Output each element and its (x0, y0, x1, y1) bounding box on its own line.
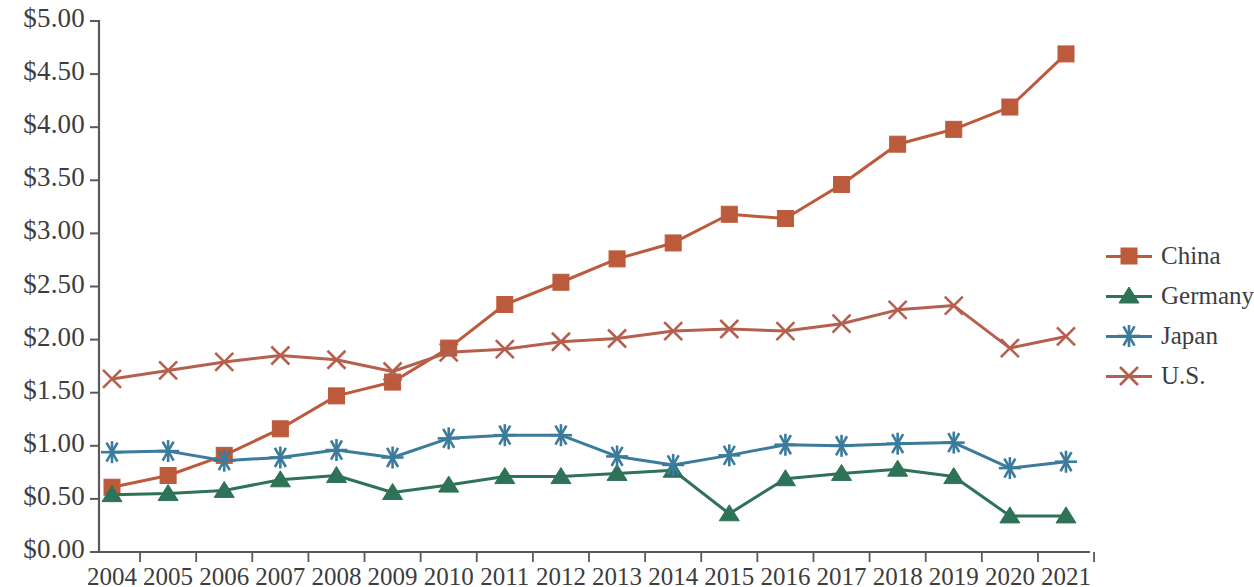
legend-item-china[interactable]: China (1106, 236, 1240, 276)
series-japan (101, 424, 1077, 479)
legend-label: Germany (1161, 282, 1254, 310)
data-point-marker (553, 274, 569, 290)
legend-marker-icon (1116, 243, 1142, 269)
legend-swatch (1106, 245, 1152, 267)
legend-item-germany[interactable]: Germany (1106, 276, 1240, 316)
x-axis-label: 2021 (1026, 563, 1106, 587)
y-axis-label: $5.00 (23, 3, 85, 34)
legend-marker-icon (1116, 363, 1142, 389)
data-point-marker (1119, 287, 1139, 303)
data-point-marker (497, 297, 513, 313)
chart-legend: ChinaGermanyJapanU.S. (1106, 236, 1240, 396)
data-point-marker (326, 467, 346, 483)
legend-marker-icon (1116, 283, 1142, 309)
data-point-marker (609, 251, 625, 267)
y-axis-label: $2.00 (23, 322, 85, 353)
data-point-marker (834, 177, 850, 193)
series-line (112, 469, 1066, 516)
data-point-marker (328, 388, 344, 404)
legend-item-us[interactable]: U.S. (1106, 356, 1240, 396)
y-axis-label: $1.50 (23, 375, 85, 406)
series-china (104, 46, 1074, 495)
data-point-marker (1002, 99, 1018, 115)
series-line (112, 54, 1066, 487)
y-axis-label: $2.50 (23, 269, 85, 300)
data-point-marker (946, 121, 962, 137)
series-germany (102, 460, 1076, 523)
data-point-marker (890, 136, 906, 152)
data-point-marker (665, 235, 681, 251)
legend-swatch (1106, 365, 1152, 387)
legend-swatch (1106, 325, 1152, 347)
data-point-marker (160, 468, 176, 484)
data-point-marker (1121, 248, 1137, 264)
data-point-marker (777, 211, 793, 227)
y-axis-label: $3.50 (23, 162, 85, 193)
y-axis-label: $4.00 (23, 109, 85, 140)
y-axis-label: $0.00 (23, 534, 85, 565)
y-axis-label: $1.00 (23, 428, 85, 459)
legend-marker-icon (1116, 323, 1142, 349)
data-point-marker (888, 460, 908, 476)
data-point-marker (721, 206, 737, 222)
series-us (103, 297, 1075, 388)
y-axis-label: $3.00 (23, 215, 85, 246)
data-point-marker (1058, 46, 1074, 62)
y-axis-label: $4.50 (23, 56, 85, 87)
legend-label: U.S. (1161, 362, 1205, 390)
legend-label: Japan (1161, 322, 1218, 350)
data-point-marker (272, 421, 288, 437)
legend-label: China (1161, 242, 1221, 270)
legend-swatch (1106, 285, 1152, 307)
y-axis-label: $0.50 (23, 481, 85, 512)
legend-item-japan[interactable]: Japan (1106, 316, 1240, 356)
series-line (112, 306, 1066, 379)
